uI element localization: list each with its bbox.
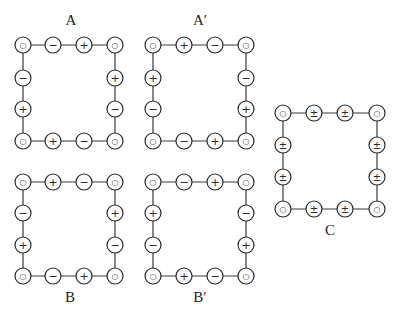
- minus-symbol: −: [48, 270, 57, 283]
- site-node: +: [238, 237, 254, 253]
- site-node: ○: [238, 133, 254, 149]
- site-node: −: [45, 37, 61, 53]
- site-node: −: [15, 70, 31, 86]
- plus-symbol: +: [110, 207, 119, 220]
- site-node: +: [207, 174, 223, 190]
- site-node: +: [238, 101, 254, 117]
- neutral-symbol: ○: [20, 41, 27, 50]
- site-node: −: [76, 133, 92, 149]
- site-node: ○: [275, 105, 291, 121]
- neutral-symbol: ○: [280, 205, 287, 214]
- neutral-symbol: ○: [243, 272, 250, 281]
- plus-minus-symbol: ±: [341, 204, 349, 215]
- panel-A: ○−+○○+−○−++−A: [15, 12, 123, 149]
- minus-symbol: −: [18, 72, 27, 85]
- site-node: ±: [337, 105, 353, 121]
- site-node: −: [145, 237, 161, 253]
- neutral-symbol: ○: [243, 41, 250, 50]
- panel-label: B: [65, 289, 75, 305]
- site-node: ○: [107, 133, 123, 149]
- minus-symbol: −: [241, 207, 250, 220]
- plus-minus-symbol: ±: [373, 172, 381, 183]
- plus-minus-symbol: ±: [373, 140, 381, 151]
- site-node: −: [76, 174, 92, 190]
- panel-label: A: [66, 12, 77, 28]
- site-node: ○: [15, 174, 31, 190]
- neutral-symbol: ○: [243, 137, 250, 146]
- minus-symbol: −: [179, 135, 188, 148]
- site-node: ○: [15, 268, 31, 284]
- neutral-symbol: ○: [374, 205, 381, 214]
- minus-symbol: −: [148, 239, 157, 252]
- site-node: −: [107, 101, 123, 117]
- minus-symbol: −: [210, 39, 219, 52]
- neutral-symbol: ○: [112, 137, 119, 146]
- neutral-symbol: ○: [150, 272, 157, 281]
- site-node: −: [238, 70, 254, 86]
- site-node: ○: [369, 105, 385, 121]
- site-node: −: [107, 237, 123, 253]
- site-node: ○: [145, 268, 161, 284]
- site-node: +: [45, 133, 61, 149]
- site-node: +: [15, 101, 31, 117]
- plus-symbol: +: [18, 239, 27, 252]
- site-node: ○: [107, 37, 123, 53]
- plus-symbol: +: [241, 103, 250, 116]
- site-node: +: [76, 268, 92, 284]
- panel-label: A′: [193, 12, 207, 28]
- plus-symbol: +: [110, 72, 119, 85]
- site-node: ○: [15, 133, 31, 149]
- plus-symbol: +: [48, 135, 57, 148]
- site-node: ±: [275, 137, 291, 153]
- plus-symbol: +: [210, 176, 219, 189]
- neutral-symbol: ○: [20, 272, 27, 281]
- site-node: ○: [238, 37, 254, 53]
- minus-symbol: −: [79, 135, 88, 148]
- site-node: ±: [306, 201, 322, 217]
- plus-minus-symbol: ±: [341, 108, 349, 119]
- panel-A-prime: ○+−○○−+○+−−+A′: [145, 12, 254, 149]
- site-node: ±: [337, 201, 353, 217]
- neutral-symbol: ○: [243, 178, 250, 187]
- panel-C: ○±±○○±±○±±±±C: [275, 105, 385, 238]
- plus-symbol: +: [79, 39, 88, 52]
- site-node: −: [238, 205, 254, 221]
- minus-symbol: −: [79, 176, 88, 189]
- panel-label: C: [325, 222, 335, 238]
- site-node: ○: [107, 174, 123, 190]
- plus-symbol: +: [148, 207, 157, 220]
- neutral-symbol: ○: [20, 137, 27, 146]
- site-node: −: [176, 133, 192, 149]
- neutral-symbol: ○: [150, 41, 157, 50]
- ring-diagram: ○−+○○+−○−++−A○+−○○−+○+−−+A′○+−○○−+○−++−B…: [0, 0, 399, 313]
- site-node: ○: [145, 133, 161, 149]
- neutral-symbol: ○: [112, 41, 119, 50]
- plus-minus-symbol: ±: [310, 108, 318, 119]
- panel-label: B′: [193, 289, 206, 305]
- site-node: ○: [369, 201, 385, 217]
- neutral-symbol: ○: [112, 178, 119, 187]
- plus-symbol: +: [18, 103, 27, 116]
- site-node: ±: [306, 105, 322, 121]
- minus-symbol: −: [48, 39, 57, 52]
- minus-symbol: −: [110, 239, 119, 252]
- site-node: −: [145, 101, 161, 117]
- plus-symbol: +: [210, 135, 219, 148]
- site-node: ±: [369, 169, 385, 185]
- panel-B-prime: ○−+○○+−○+−−+B′: [145, 174, 254, 305]
- site-node: +: [15, 237, 31, 253]
- minus-symbol: −: [110, 103, 119, 116]
- plus-symbol: +: [79, 270, 88, 283]
- site-node: ○: [238, 268, 254, 284]
- site-node: +: [145, 70, 161, 86]
- site-node: ○: [145, 174, 161, 190]
- neutral-symbol: ○: [374, 109, 381, 118]
- site-node: −: [207, 37, 223, 53]
- plus-minus-symbol: ±: [279, 140, 287, 151]
- neutral-symbol: ○: [112, 272, 119, 281]
- neutral-symbol: ○: [20, 178, 27, 187]
- site-node: −: [207, 268, 223, 284]
- site-node: ○: [145, 37, 161, 53]
- site-node: +: [207, 133, 223, 149]
- plus-symbol: +: [241, 239, 250, 252]
